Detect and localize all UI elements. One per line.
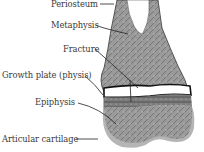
label-periosteum: Periosteum <box>51 0 98 9</box>
label-fracture: Fracture <box>63 44 99 54</box>
label-metaphysis: Metaphysis <box>51 20 99 30</box>
label-articular-cartilage: Articular cartilage <box>2 134 78 144</box>
label-epiphysis: Epiphysis <box>35 97 75 107</box>
label-growth-plate: Growth plate (physis) <box>2 70 92 80</box>
epiphysis-shape <box>104 105 192 143</box>
